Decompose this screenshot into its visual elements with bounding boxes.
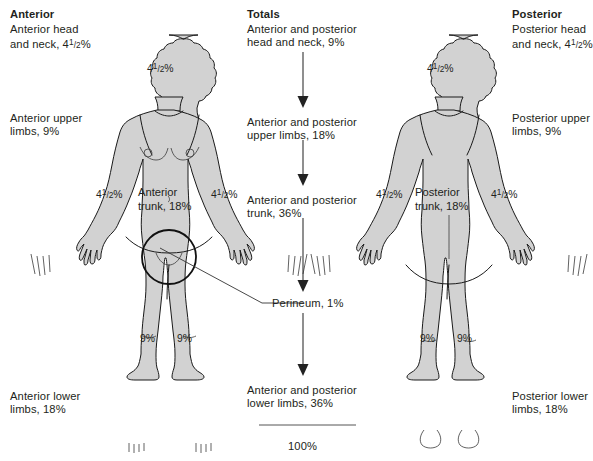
anterior-head-neck-label-line2-row: and neck, 41/2% xyxy=(10,36,91,53)
anterior-column-heading: Anterior xyxy=(10,8,54,22)
totals-flow-arrows xyxy=(259,52,356,425)
anterior-trunk-label-line1: Anterior xyxy=(138,186,177,200)
anterior-upper-limbs-label-line2: limbs, 9% xyxy=(10,125,59,139)
anterior-head-percent-sign: % xyxy=(164,63,173,74)
totals-head-neck-line1: Anterior and posterior xyxy=(247,23,357,37)
posterior-right-arm-percent: 41/2% xyxy=(491,186,518,201)
posterior-neck xyxy=(435,97,463,111)
anterior-left-arm-percent-sign: % xyxy=(113,189,122,200)
totals-lower-limbs-line2: lower limbs, 36% xyxy=(247,397,333,411)
totals-column-heading: Totals xyxy=(247,8,280,22)
anterior-upper-limbs-label-line1: Anterior upper xyxy=(10,112,82,126)
posterior-fingers-right xyxy=(568,254,587,276)
totals-lower-limbs-line1: Anterior and posterior xyxy=(247,384,357,398)
posterior-upper-limbs-label-line2: limbs, 9% xyxy=(512,125,561,139)
totals-upper-limbs-line1: Anterior and posterior xyxy=(247,116,357,130)
anterior-lower-limbs-label-line1: Anterior lower xyxy=(10,390,80,404)
anterior-trunk-label-line2: trunk, 18% xyxy=(138,200,191,214)
posterior-head-percent: 41/2% xyxy=(427,60,454,75)
posterior-upper-limbs-label-line1: Posterior upper xyxy=(512,112,590,126)
posterior-head-percent-sign: % xyxy=(444,63,453,74)
totals-trunk-line2: trunk, 36% xyxy=(247,207,301,221)
posterior-trunk-label-line1: Posterior xyxy=(415,186,460,200)
rule-of-nines-diagram: Anterior Anterior head and neck, 41/2% A… xyxy=(0,0,593,461)
anterior-fingers-left xyxy=(31,254,50,276)
anterior-head-neck-label-line1: Anterior head xyxy=(10,23,78,35)
anterior-head-percent: 41/2% xyxy=(147,60,174,75)
posterior-fingers-left xyxy=(311,254,330,276)
posterior-lower-limbs-label-line1: Posterior lower xyxy=(512,390,588,404)
totals-upper-limbs-line2: upper limbs, 18% xyxy=(247,129,335,143)
anterior-toes-left xyxy=(129,443,144,453)
arrow-upper-to-trunk xyxy=(298,140,309,186)
posterior-head-neck-label-line2: and neck, 4 xyxy=(512,38,571,50)
anterior-toes-right xyxy=(196,443,211,453)
anterior-left-arm-percent: 41/2% xyxy=(96,186,123,201)
totals-perineum-label: Perineum, 1% xyxy=(272,297,343,311)
posterior-trunk-label-line2: trunk, 18% xyxy=(415,200,468,214)
anterior-head-neck-pct-sign: % xyxy=(81,38,91,50)
posterior-lower-limbs-label-line2: limbs, 18% xyxy=(512,403,568,417)
arrow-head-to-upper xyxy=(298,52,309,108)
anterior-neck xyxy=(155,97,183,111)
anterior-right-arm-percent: 41/2% xyxy=(211,186,238,201)
posterior-torso-limbs xyxy=(357,110,535,380)
anterior-fingers-right xyxy=(288,254,307,276)
arrow-perineum-to-lower xyxy=(298,313,309,376)
totals-head-neck-line2: head and neck, 9% xyxy=(247,36,345,50)
anterior-right-leg-percent: 9% xyxy=(177,333,192,345)
posterior-head-neck-label-line1: Posterior head xyxy=(512,23,586,37)
posterior-left-leg-percent: 9% xyxy=(420,333,435,345)
posterior-head-neck-pct-sign: % xyxy=(583,38,593,50)
posterior-heel-right xyxy=(458,430,478,448)
anterior-torso-limbs xyxy=(77,110,255,380)
anterior-head-neck-label-line2: and neck, 4 xyxy=(10,38,69,50)
anterior-head-neck-label: Anterior head xyxy=(10,23,78,37)
anterior-right-arm-percent-sign: % xyxy=(228,189,237,200)
posterior-right-leg-percent: 9% xyxy=(457,333,472,345)
totals-trunk-line1: Anterior and posterior xyxy=(247,194,357,208)
posterior-head-neck-label-line2-row: and neck, 41/2% xyxy=(512,36,593,53)
posterior-heel-left xyxy=(420,430,440,448)
posterior-left-arm-percent-sign: % xyxy=(393,189,402,200)
posterior-left-arm-percent: 41/2% xyxy=(376,186,403,201)
totals-grand-total: 100% xyxy=(288,440,317,454)
posterior-right-arm-percent-sign: % xyxy=(508,189,517,200)
anterior-lower-limbs-label-line2: limbs, 18% xyxy=(10,403,66,417)
anterior-left-leg-percent: 9% xyxy=(140,333,155,345)
posterior-column-heading: Posterior xyxy=(512,8,562,22)
